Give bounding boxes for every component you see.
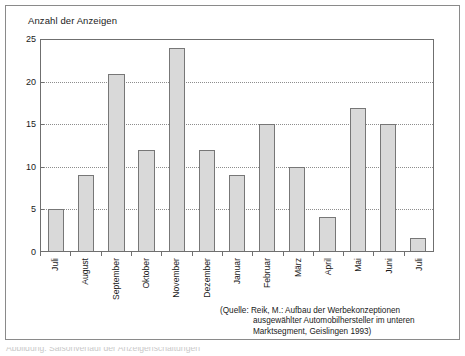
- bottom-caption-text: Abbildung: Saisonverlauf der Anzeigensch…: [6, 347, 200, 353]
- x-label-slot: Dezember: [192, 256, 222, 316]
- bar[interactable]: [229, 175, 245, 251]
- bar-slot: [192, 40, 222, 251]
- bar-slot: [373, 40, 403, 251]
- bar-slot: [252, 40, 282, 251]
- x-label-slot: Juli: [40, 256, 70, 316]
- chart-title: Anzahl der Anzeigen: [28, 15, 117, 26]
- y-tick-label: 25: [8, 34, 36, 44]
- bar-slot: [403, 40, 433, 251]
- bottom-caption-strip: Abbildung: Saisonverlauf der Anzeigensch…: [0, 347, 465, 356]
- x-tick-label: Januar: [232, 258, 242, 284]
- x-label-slot: Oktober: [131, 256, 161, 316]
- x-tick-label: November: [171, 258, 181, 298]
- y-tick-label: 20: [8, 77, 36, 87]
- bar[interactable]: [108, 74, 124, 251]
- bar-slot: [222, 40, 252, 251]
- x-tick-label: Juli: [50, 258, 60, 271]
- bar[interactable]: [48, 209, 64, 251]
- y-tick-mark: [40, 167, 44, 168]
- source-note-line-2: ausgewählter Automobilhersteller im unte…: [220, 316, 415, 326]
- x-tick-label: März: [293, 258, 303, 277]
- bar-slot: [162, 40, 192, 251]
- figure-frame: Anzahl der Anzeigen 0510152025 JuliAugus…: [5, 5, 460, 340]
- bar[interactable]: [289, 167, 305, 251]
- bar-slot: [312, 40, 342, 251]
- chart-page: Anzahl der Anzeigen 0510152025 JuliAugus…: [0, 0, 465, 356]
- bar-slot: [41, 40, 71, 251]
- bar[interactable]: [410, 238, 426, 251]
- x-tick-label: Juni: [384, 258, 394, 274]
- y-tick-mark: [40, 209, 44, 210]
- x-label-slot: September: [101, 256, 131, 316]
- x-tick-label: April: [323, 258, 333, 275]
- bar[interactable]: [78, 175, 94, 251]
- source-note: (Quelle: Reik, M.: Aufbau der Werbekonze…: [220, 306, 415, 337]
- x-tick-label: Mai: [353, 258, 363, 272]
- bar-slot: [343, 40, 373, 251]
- bar-slot: [131, 40, 161, 251]
- bar[interactable]: [199, 150, 215, 251]
- y-tick-label: 0: [8, 247, 36, 257]
- bar[interactable]: [380, 124, 396, 251]
- bars-layer: [41, 40, 433, 251]
- bar[interactable]: [169, 48, 185, 251]
- x-tick-label: Dezember: [202, 258, 212, 298]
- y-axis: 0510152025: [6, 39, 36, 252]
- source-note-line-1: (Quelle: Reik, M.: Aufbau der Werbekonze…: [220, 306, 415, 316]
- x-tick-label: Oktober: [141, 258, 151, 289]
- bar-slot: [101, 40, 131, 251]
- y-tick-mark: [40, 124, 44, 125]
- source-note-line-3: Marktsegment, Geislingen 1993): [220, 327, 415, 337]
- y-tick-label: 10: [8, 162, 36, 172]
- x-label-slot: November: [161, 256, 191, 316]
- bar[interactable]: [350, 108, 366, 251]
- x-tick-label: September: [111, 258, 121, 300]
- bar-slot: [71, 40, 101, 251]
- x-label-slot: August: [70, 256, 100, 316]
- bar-slot: [282, 40, 312, 251]
- y-tick-label: 15: [8, 119, 36, 129]
- x-tick-label: Februar: [262, 258, 272, 288]
- y-tick-mark: [40, 82, 44, 83]
- bar[interactable]: [138, 150, 154, 251]
- x-tick-label: Juli: [414, 258, 424, 271]
- y-tick-label: 5: [8, 204, 36, 214]
- bar[interactable]: [319, 217, 335, 251]
- plot-area: [40, 39, 434, 252]
- bar[interactable]: [259, 124, 275, 251]
- x-tick-label: August: [80, 258, 90, 285]
